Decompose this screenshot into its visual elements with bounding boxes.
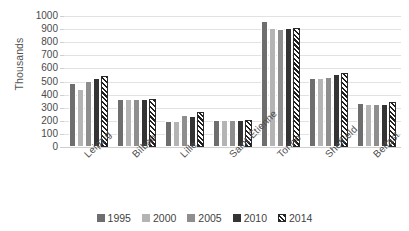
bar-chart: Thousands 100090080070060050040030020010… bbox=[0, 0, 409, 231]
legend-swatch bbox=[142, 214, 150, 222]
x-axis-category-labels: LeipzigBilbaoLilleSaint-ÉtienneTorinoShe… bbox=[64, 150, 401, 202]
bar bbox=[325, 77, 332, 147]
y-tick-mark bbox=[60, 121, 64, 122]
y-tick-label: 1000 bbox=[18, 10, 58, 22]
bar-group bbox=[112, 16, 160, 147]
legend-swatch bbox=[97, 214, 105, 222]
y-tick-label: 100 bbox=[18, 128, 58, 140]
legend-item[interactable]: 2005 bbox=[187, 212, 221, 224]
legend-swatch bbox=[233, 214, 241, 222]
legend-item[interactable]: 2000 bbox=[142, 212, 176, 224]
y-tick-label: 700 bbox=[18, 49, 58, 61]
y-tick-label: 500 bbox=[18, 76, 58, 88]
y-tick-mark bbox=[60, 82, 64, 83]
legend-label: 2014 bbox=[289, 212, 312, 224]
y-tick-mark bbox=[60, 95, 64, 96]
bar-group bbox=[208, 16, 256, 147]
bar bbox=[125, 99, 132, 147]
y-tick-label: 900 bbox=[18, 23, 58, 35]
y-tick-mark bbox=[60, 55, 64, 56]
y-tick-mark bbox=[60, 134, 64, 135]
bar bbox=[213, 120, 220, 147]
bar bbox=[293, 28, 300, 147]
bar-group bbox=[160, 16, 208, 147]
y-tick-mark bbox=[60, 108, 64, 109]
y-tick-mark bbox=[60, 68, 64, 69]
legend-item[interactable]: 1995 bbox=[97, 212, 131, 224]
y-tick-label: 800 bbox=[18, 36, 58, 48]
y-tick-label: 300 bbox=[18, 102, 58, 114]
bar bbox=[133, 99, 140, 147]
legend-label: 1995 bbox=[108, 212, 131, 224]
bar bbox=[277, 29, 284, 147]
bar bbox=[165, 121, 172, 147]
y-tick-mark bbox=[60, 16, 64, 17]
bar bbox=[77, 89, 84, 147]
bar bbox=[285, 28, 292, 147]
bar-group bbox=[305, 16, 353, 147]
bar bbox=[197, 112, 204, 147]
bar bbox=[69, 83, 76, 147]
y-tick-label: 200 bbox=[18, 115, 58, 127]
legend: 19952000200520102014 bbox=[0, 212, 409, 224]
legend-label: 2005 bbox=[198, 212, 221, 224]
bar bbox=[85, 81, 92, 147]
y-tick-mark bbox=[60, 42, 64, 43]
legend-swatch bbox=[187, 214, 195, 222]
legend-item[interactable]: 2010 bbox=[233, 212, 267, 224]
bar bbox=[365, 104, 372, 147]
bar bbox=[357, 103, 364, 147]
legend-label: 2000 bbox=[153, 212, 176, 224]
legend-swatch bbox=[278, 214, 286, 222]
legend-item[interactable]: 2014 bbox=[278, 212, 312, 224]
bar bbox=[317, 78, 324, 147]
y-tick-mark bbox=[60, 147, 64, 148]
bar bbox=[173, 121, 180, 147]
y-tick-label: 600 bbox=[18, 62, 58, 74]
legend-label: 2010 bbox=[244, 212, 267, 224]
bar bbox=[221, 120, 228, 147]
bar bbox=[117, 99, 124, 147]
bar bbox=[373, 104, 380, 147]
bar-group bbox=[353, 16, 401, 147]
bar bbox=[309, 78, 316, 147]
y-tick-mark bbox=[60, 29, 64, 30]
y-tick-label: 0 bbox=[18, 141, 58, 153]
y-tick-label: 400 bbox=[18, 89, 58, 101]
bar bbox=[269, 28, 276, 147]
